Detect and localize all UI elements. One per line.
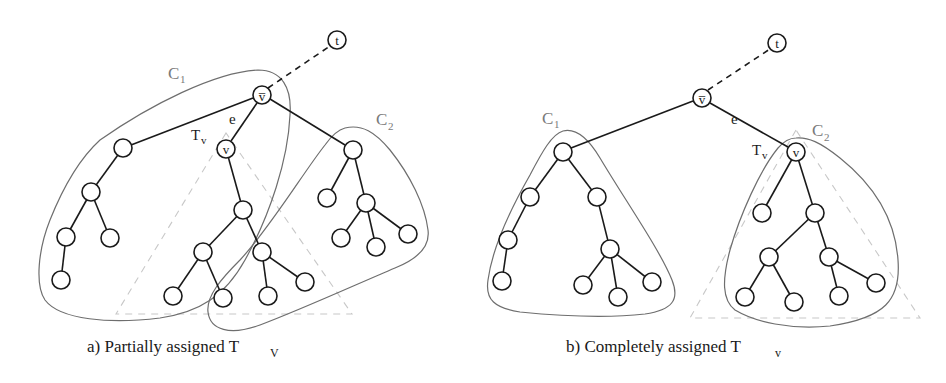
tree-node — [332, 229, 350, 247]
edge — [762, 152, 796, 213]
figure-canvas: t v̅ v e T v C 1 C 2 a) Partially assign… — [0, 0, 946, 383]
edge-label-e: e — [731, 111, 738, 127]
panel-b: t v̅ v e T v C 1 C 2 b) Completely assig… — [487, 34, 920, 360]
tree-node — [753, 204, 771, 222]
tree-node — [259, 287, 277, 305]
edge-vbar-t — [268, 46, 330, 88]
cluster-label-c2: C — [812, 121, 823, 140]
tree-node — [643, 273, 661, 291]
tree-node — [357, 194, 375, 212]
tree-node — [785, 293, 803, 311]
tree-node — [736, 288, 754, 306]
tree-node — [164, 287, 182, 305]
tree-node — [57, 228, 75, 246]
tree-node — [114, 139, 132, 157]
tree-node — [296, 273, 314, 291]
tree-node — [194, 243, 212, 261]
subtree-label-tv-sub: v — [201, 134, 207, 146]
tree-node — [399, 225, 417, 243]
edge-vbar-t — [708, 49, 770, 90]
node-v-label: v — [223, 142, 230, 157]
cluster-label-c2-sub: 2 — [824, 131, 830, 143]
edge-label-e: e — [229, 111, 236, 127]
tree-node — [574, 276, 592, 294]
subtree-label-tv: T — [752, 142, 761, 158]
caption-a: a) Partially assigned T — [87, 337, 240, 356]
tree-node — [521, 188, 539, 206]
tree-node — [601, 240, 619, 258]
edge-vbar-c2root — [270, 99, 345, 145]
node-vbar-label: v̅ — [258, 89, 266, 104]
caption-a-sub: V — [270, 346, 279, 360]
tree-node — [52, 271, 70, 289]
cluster-label-c1-sub: 1 — [180, 73, 186, 85]
panel-a: t v̅ v e T v C 1 C 2 a) Partially assign… — [39, 31, 428, 360]
tree-node — [820, 248, 838, 266]
cluster-label-c2-sub: 2 — [388, 120, 394, 132]
node-t-label: t — [335, 33, 339, 48]
cluster-hull-c1 — [39, 70, 290, 321]
cluster-label-c2: C — [376, 110, 387, 129]
edge-vbar-c1root — [571, 101, 693, 148]
subtree-label-tv-sub: v — [762, 149, 768, 161]
caption-b: b) Completely assigned T — [566, 337, 741, 356]
node-v-label: v — [793, 145, 800, 160]
tree-node — [367, 238, 385, 256]
node-vbar-label: v̅ — [698, 92, 706, 107]
edge-vbar-v — [710, 103, 788, 147]
tree-node — [867, 274, 885, 292]
tree-node — [760, 248, 778, 266]
tree-node — [101, 229, 119, 247]
tree-node — [588, 188, 606, 206]
caption-b-sub: v — [775, 346, 781, 360]
tree-node — [806, 204, 824, 222]
cluster-label-c1: C — [168, 64, 179, 83]
tree-node — [609, 288, 627, 306]
tree-node — [318, 189, 336, 207]
tree-node — [82, 183, 100, 201]
tree-node — [499, 231, 517, 249]
tree-node — [214, 289, 232, 307]
subtree-label-tv: T — [191, 127, 200, 143]
cluster-hull-c2 — [208, 127, 428, 331]
tree-node — [493, 272, 511, 290]
node-t-label: t — [775, 36, 779, 51]
cluster-label-c1-sub: 1 — [554, 118, 560, 130]
subtree-tv-triangle — [116, 133, 352, 314]
tree-node — [830, 287, 848, 305]
tree-node — [253, 243, 271, 261]
tree-node — [344, 141, 362, 159]
cluster-label-c1: C — [542, 109, 553, 128]
tree-node — [234, 201, 252, 219]
tree-node — [554, 143, 572, 161]
